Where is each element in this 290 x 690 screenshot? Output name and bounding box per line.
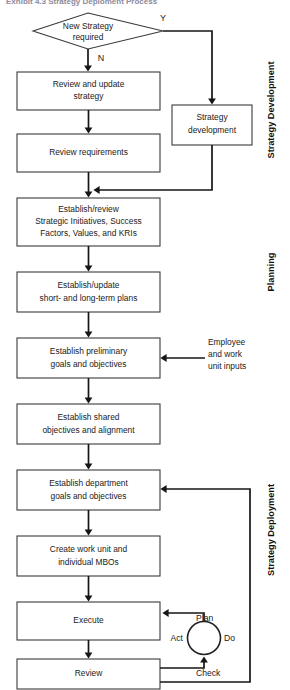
node-label: goals and objectives [51,359,127,369]
phase-label-strategy-deployment: Strategy Deployment [266,484,276,576]
branch-label-no: N [98,53,105,63]
node-label: Create work unit and [50,544,128,554]
node-establish-preliminary-goals: Establish preliminary goals and objectiv… [17,338,160,378]
node-label: short- and long-term plans [40,293,138,303]
node-establish-review-initiatives: Establish/review Strategic Initiatives, … [17,198,160,246]
branch-label-yes: Y [160,13,166,23]
svg-text:Planning: Planning [266,253,276,292]
node-label: development [188,125,237,135]
node-label: strategy [74,91,105,101]
node-label: Establish/review [58,204,119,214]
pdca-cycle-circle [188,622,221,655]
decision-label-line1: New Strategy [63,21,114,31]
node-establish-department-goals: Establish department goals and objective… [17,470,160,510]
pdca-act-label: Act [171,633,184,643]
phase-label-planning: Planning [266,253,276,292]
node-label: Review requirements [49,147,128,157]
node-establish-update-plans: Establish/update short- and long-term pl… [17,272,160,312]
node-label: Strategy [196,112,228,122]
node-label: Review and update [53,79,125,89]
node-label: Establish/update [58,280,120,290]
node-label: individual MBOs [58,557,119,567]
node-label: Review [75,668,103,678]
pdca-plan-label: Plan [196,613,213,623]
diagram-title: Exhibit 4.3 Strategy Deploment Process [6,0,158,6]
svg-text:Strategy Development: Strategy Development [266,61,276,158]
node-establish-shared-objectives: Establish shared objectives and alignmen… [17,404,160,444]
annotation-employee-inputs: Employee and work unit inputs [208,337,246,371]
node-review-update-strategy: Review and update strategy [17,72,160,110]
node-label: objectives and alignment [42,425,135,435]
annotation-line: unit inputs [208,361,246,371]
pdca-do-label: Do [224,633,235,643]
node-label: Factors, Values, and KRIs [40,228,137,238]
phase-label-strategy-development: Strategy Development [266,61,276,158]
decision-label-line2: required [73,32,104,42]
decision-new-strategy-required: New Strategy required [33,13,163,49]
pdca-check-label: Check [196,668,221,678]
connector-review-to-check [160,660,204,668]
node-execute: Execute [17,602,160,640]
node-label: Execute [73,615,104,625]
strategy-deployment-flowchart: Exhibit 4.3 Strategy Deploment Process N… [0,0,290,690]
node-create-work-unit-mbos: Create work unit and individual MBOs [17,536,160,576]
node-strategy-development: Strategy development [172,105,252,145]
node-label: Strategic Initiatives, Success [35,216,142,226]
node-label: Establish shared [58,412,120,422]
flowchart-page: Exhibit 4.3 Strategy Deploment Process N… [0,0,290,690]
annotation-line: Employee [208,337,246,347]
node-label: Establish department [49,478,128,488]
node-review-requirements: Review requirements [17,134,160,172]
node-review: Review [17,659,160,689]
node-label: goals and objectives [51,491,127,501]
annotation-line: and work [208,349,243,359]
connector-yes-branch [163,31,212,101]
node-label: Establish preliminary [50,346,128,356]
svg-text:Strategy Deployment: Strategy Deployment [266,484,276,576]
